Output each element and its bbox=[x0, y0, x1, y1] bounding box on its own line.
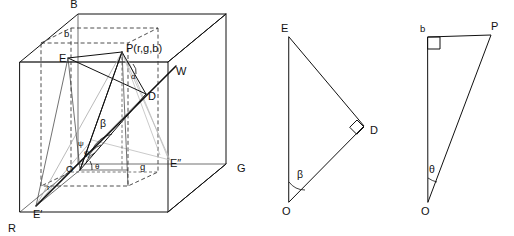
cube-point-label-P: P(r,g,b) bbox=[126, 42, 162, 54]
cube-vertex-label-D: D bbox=[148, 90, 156, 102]
triangle-theta-vertex-label-P: P bbox=[491, 20, 498, 32]
cube-vertex-label-B: B bbox=[70, 0, 77, 10]
angle-arcs bbox=[86, 64, 136, 170]
triangle-beta-vertex-label-D: D bbox=[370, 124, 378, 136]
cube-angle-label-phi: φ bbox=[84, 148, 89, 157]
triangle-beta-panel: E D O β bbox=[281, 22, 378, 217]
cube-vertex-label-R: R bbox=[8, 222, 16, 234]
cube-angle-label-theta: θ bbox=[95, 162, 100, 171]
cube-front-face bbox=[20, 62, 168, 212]
cube-angle-label-alpha: α bbox=[131, 72, 136, 81]
cube-bottom-right-edge bbox=[168, 164, 226, 212]
triangle-theta-vertex-label-b: b bbox=[420, 23, 425, 34]
triangle-theta-angle-label: θ bbox=[429, 163, 435, 175]
figure-canvas: B b E W D G g E″ O r E′ R P(r,g,b) β θ α… bbox=[0, 0, 514, 236]
cube-interior-edges bbox=[20, 14, 226, 212]
triangle-theta-vertex-label-O: O bbox=[421, 205, 430, 217]
gray-construction-rays bbox=[36, 52, 170, 206]
cube-vertex-label-g: g bbox=[140, 161, 145, 172]
cube-axis-label-r: r bbox=[47, 183, 50, 192]
cube-panel: B b E W D G g E″ O r E′ R P(r,g,b) β θ α… bbox=[8, 0, 246, 234]
cube-vertex-label-b: b bbox=[64, 28, 69, 39]
triangle-beta-angle-label: β bbox=[297, 168, 303, 180]
cube-vertex-label-E-double-prime: E″ bbox=[170, 157, 181, 169]
cube-right-face bbox=[168, 14, 226, 212]
triangle-theta-panel: b P O θ bbox=[420, 20, 498, 217]
cube-angle-label-beta: β bbox=[100, 117, 106, 129]
cube-vertex-label-E: E bbox=[59, 52, 66, 64]
cube-vertex-label-O: O bbox=[66, 163, 73, 174]
cube-vertex-label-W: W bbox=[176, 65, 187, 77]
cube-vertex-label-E-prime: E′ bbox=[33, 208, 42, 220]
figure-root: B b E W D G g E″ O r E′ R P(r,g,b) β θ α… bbox=[0, 0, 514, 236]
cube-angle-label-psi: ψ bbox=[78, 139, 84, 148]
cube-vertex-label-G: G bbox=[237, 162, 246, 174]
main-construction-lines bbox=[36, 52, 176, 206]
triangle-beta-vertex-label-E: E bbox=[281, 22, 288, 34]
triangle-beta-vertex-label-O: O bbox=[282, 205, 291, 217]
